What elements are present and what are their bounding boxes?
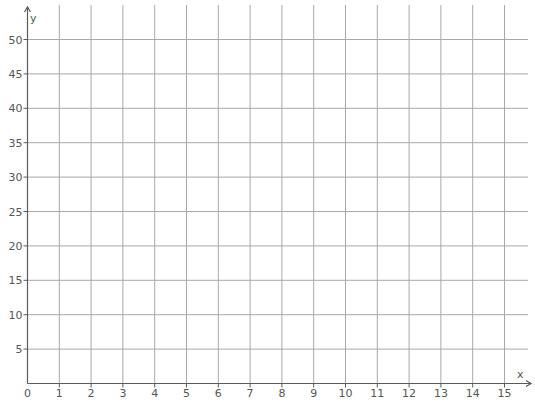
y-tick-label: 5 — [16, 343, 23, 356]
y-tick-label: 25 — [9, 206, 23, 219]
chart: x y 0123456789101112131415 5101520253035… — [0, 0, 535, 408]
x-tick-label: 14 — [466, 387, 480, 400]
axes — [25, 7, 532, 387]
x-tick-label: 10 — [339, 387, 353, 400]
x-tick-label: 1 — [56, 387, 63, 400]
x-tick-label: 15 — [498, 387, 512, 400]
y-tick-label: 35 — [9, 137, 23, 150]
x-tick-label: 0 — [24, 387, 31, 400]
x-tick-label: 3 — [119, 387, 126, 400]
y-tick-label: 45 — [9, 68, 23, 81]
x-tick-label: 5 — [183, 387, 190, 400]
x-tick-label: 7 — [247, 387, 254, 400]
y-tick-label: 10 — [9, 309, 23, 322]
vertical-gridlines — [59, 5, 504, 384]
x-tick-label: 13 — [434, 387, 448, 400]
x-tick-label: 9 — [310, 387, 317, 400]
y-tick-label: 15 — [9, 274, 23, 287]
x-axis-label: x — [517, 368, 524, 381]
x-tick-label: 12 — [402, 387, 416, 400]
y-tick-label: 50 — [9, 34, 23, 47]
y-tick-label: 20 — [9, 240, 23, 253]
y-tick-label: 40 — [9, 102, 23, 115]
x-tick-label: 4 — [151, 387, 158, 400]
y-tick-labels: 5101520253035404550 — [9, 34, 23, 357]
horizontal-gridlines — [28, 40, 529, 350]
x-tick-label: 11 — [370, 387, 384, 400]
y-tick-label: 30 — [9, 171, 23, 184]
x-tick-label: 2 — [88, 387, 95, 400]
x-tick-label: 8 — [278, 387, 285, 400]
x-tick-label: 6 — [215, 387, 222, 400]
y-axis-label: y — [30, 12, 37, 25]
x-tick-labels: 0123456789101112131415 — [24, 387, 512, 400]
